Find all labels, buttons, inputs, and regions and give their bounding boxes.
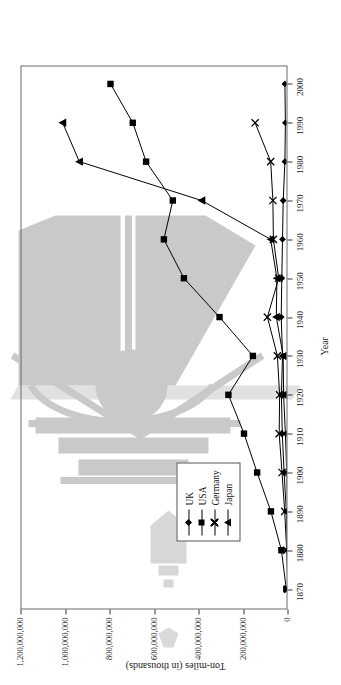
legend-label-germany: Germany — [210, 470, 220, 505]
x-axis-tick — [287, 122, 292, 123]
series-uk — [277, 80, 287, 592]
legend-row: USA — [195, 470, 208, 535]
x-axis-tick — [287, 278, 292, 279]
y-axis-tick-label: 1,200,000,000 — [14, 617, 24, 666]
y-axis: 0200,000,000400,000,000600,000,000800,00… — [20, 609, 287, 685]
x-axis-tick-label: 1970 — [294, 194, 304, 212]
y-axis-tick — [154, 609, 155, 614]
legend-row: Germany — [208, 470, 221, 535]
x-axis-tick-label: 1880 — [294, 544, 304, 562]
x-axis-tick-label: 1990 — [294, 116, 304, 134]
legend-label-usa: USA — [197, 486, 207, 505]
y-axis-tick-label: 1,000,000,000 — [59, 617, 69, 666]
x-axis-tick-label: 1950 — [294, 272, 304, 290]
legend-marker-germany — [209, 509, 220, 535]
legend-marker-usa — [196, 509, 207, 535]
x-axis-tick-label: 2000 — [294, 77, 304, 95]
y-axis-tick-label: 400,000,000 — [192, 617, 202, 660]
x-axis-tick-label: 1940 — [294, 311, 304, 329]
y-axis-tick-label: 600,000,000 — [148, 617, 158, 660]
x-axis-tick-label: 1930 — [294, 349, 304, 367]
y-axis-title: Ton-miles (in thousands) — [125, 660, 225, 671]
y-axis-tick — [287, 609, 288, 614]
chart-figure: UK USA Germany Japan 1870188018901900191… — [0, 0, 341, 685]
legend-marker-uk — [183, 509, 194, 535]
legend-row: UK — [182, 470, 195, 535]
x-axis-tick — [287, 394, 292, 395]
rotated-figure-container: UK USA Germany Japan 1870188018901900191… — [0, 0, 341, 685]
x-axis-tick — [287, 511, 292, 512]
legend-label-japan: Japan — [223, 483, 233, 505]
x-axis-tick-label: 1910 — [294, 427, 304, 445]
legend-marker-japan — [222, 509, 233, 535]
chart-legend: UK USA Germany Japan — [176, 462, 240, 541]
x-axis-title: Year — [318, 337, 329, 355]
x-axis-tick — [287, 550, 292, 551]
x-axis-tick-label: 1870 — [294, 583, 304, 601]
x-axis-tick — [287, 317, 292, 318]
y-axis-tick-label: 0 — [281, 617, 291, 621]
x-axis-tick — [287, 433, 292, 434]
legend-row: Japan — [221, 470, 234, 535]
y-axis-tick — [20, 609, 21, 614]
y-axis-tick — [109, 609, 110, 614]
x-axis-tick-label: 1900 — [294, 466, 304, 484]
x-axis-tick-label: 1890 — [294, 505, 304, 523]
plot-inner — [21, 66, 286, 608]
y-axis-tick — [243, 609, 244, 614]
x-axis-tick — [287, 472, 292, 473]
y-axis-tick — [198, 609, 199, 614]
y-axis-tick — [65, 609, 66, 614]
x-axis-tick — [287, 589, 292, 590]
x-axis-tick-label: 1920 — [294, 388, 304, 406]
plot-area — [20, 65, 287, 609]
y-axis-tick-label: 200,000,000 — [237, 617, 247, 660]
x-axis-tick — [287, 355, 292, 356]
x-axis-tick — [287, 161, 292, 162]
x-axis-tick — [287, 239, 292, 240]
y-axis-tick-label: 800,000,000 — [103, 617, 113, 660]
x-axis-tick-label: 1980 — [294, 155, 304, 173]
legend-label-uk: UK — [184, 491, 194, 505]
data-series-svg — [21, 65, 287, 608]
x-axis-tick — [287, 200, 292, 201]
x-axis-tick — [287, 83, 292, 84]
x-axis-tick-label: 1960 — [294, 233, 304, 251]
